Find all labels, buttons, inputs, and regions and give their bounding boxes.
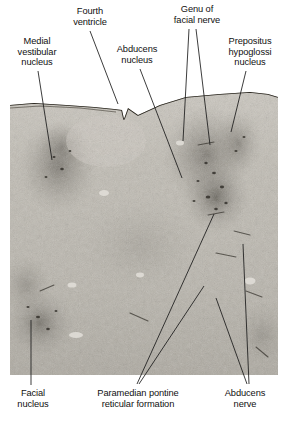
- label-medial-vestibular-nucleus: Medial vestibular nucleus: [2, 36, 72, 68]
- label-fourth-ventricle: Fourth ventricle: [58, 6, 122, 27]
- tissue-image: [10, 85, 278, 375]
- anatomy-figure: Medial vestibular nucleus Fourth ventric…: [0, 0, 285, 422]
- label-facial-nucleus: Facial nucleus: [2, 388, 64, 409]
- label-genu-of-facial-nerve: Genu of facial nerve: [160, 4, 234, 25]
- label-paramedian-pontine-reticular-formation: Paramedian pontine reticular formation: [76, 388, 200, 409]
- label-abducens-nerve: Abducens nerve: [212, 388, 278, 409]
- label-abducens-nucleus: Abducens nucleus: [104, 44, 170, 65]
- histology-photomicrograph: [10, 85, 278, 375]
- label-prepositus-hypoglossi-nucleus: Prepositus hypoglossi nucleus: [216, 36, 284, 68]
